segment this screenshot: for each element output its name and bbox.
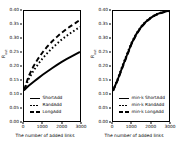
y-tick-label: 0.10 <box>89 92 108 96</box>
y-tick-mark <box>20 80 22 81</box>
legend-swatch-dotted-icon <box>30 103 40 107</box>
y-tick-label: 0.05 <box>0 106 19 110</box>
legend-item: LongAdd <box>30 110 62 114</box>
y-tick-label: 0.40 <box>89 8 108 12</box>
x-axis-label-right: The number of added links <box>95 133 173 138</box>
y-axis-label-sub-left: out <box>4 50 8 55</box>
legend-right: min-k ShortAddmin-k RandAddmin-k LongAdd <box>119 96 165 114</box>
y-tick-mark <box>20 24 22 25</box>
y-tick-mark <box>109 94 111 95</box>
y-tick-mark <box>109 66 111 67</box>
series-line <box>113 11 169 91</box>
y-tick-label: 0.35 <box>0 22 19 26</box>
y-tick-label: 0.05 <box>89 106 108 110</box>
y-tick-mark <box>20 94 22 95</box>
y-tick-label: 0.30 <box>0 36 19 40</box>
y-tick-label: 0.15 <box>0 78 19 82</box>
legend-label: LongAdd <box>43 110 62 114</box>
panel-left: 0.000.050.100.150.200.250.300.350.40 010… <box>0 0 89 146</box>
x-tick-label: 1000 <box>37 125 48 129</box>
legend-item: min-k LongAdd <box>119 110 165 114</box>
y-tick-mark <box>20 10 22 11</box>
y-axis-label-sub-right: out <box>93 50 97 55</box>
legend-label: ShortAdd <box>43 96 63 100</box>
y-tick-label: 0.00 <box>0 120 19 124</box>
x-tick-label: 2000 <box>145 125 156 129</box>
x-axis-label-left: The number of added links <box>6 133 84 138</box>
series-line <box>24 20 80 90</box>
legend-item: ShortAdd <box>30 96 62 100</box>
legend-label: min-k ShortAdd <box>132 96 165 100</box>
legend-item: min-k ShortAdd <box>119 96 165 100</box>
x-tick-mark <box>61 122 62 124</box>
y-tick-mark <box>109 38 111 39</box>
y-tick-mark <box>20 38 22 39</box>
y-tick-mark <box>109 52 111 53</box>
legend-label: RandAdd <box>43 103 62 107</box>
x-tick-label: 3000 <box>76 125 87 129</box>
series-line <box>113 11 169 91</box>
legend-swatch-dashed-icon <box>30 110 40 114</box>
legend-label: min-k LongAdd <box>132 110 164 114</box>
y-axis-label-text-right: R <box>90 55 95 58</box>
y-tick-label: 0.30 <box>89 36 108 40</box>
y-axis-label-left: Rout <box>1 50 9 58</box>
panel-right: 0.000.050.100.150.200.250.300.350.40 010… <box>89 0 178 146</box>
y-tick-mark <box>20 66 22 67</box>
y-tick-label: 0.10 <box>0 92 19 96</box>
x-tick-mark <box>131 122 132 124</box>
y-tick-mark <box>109 108 111 109</box>
legend-item: min-k RandAdd <box>119 103 165 107</box>
x-tick-mark <box>150 122 151 124</box>
y-tick-label: 0.35 <box>89 22 108 26</box>
y-tick-label: 0.20 <box>89 64 108 68</box>
y-tick-label: 0.15 <box>89 78 108 82</box>
y-axis-label-right: Rout <box>90 50 98 58</box>
x-tick-mark <box>170 122 171 124</box>
x-tick-label: 3000 <box>165 125 176 129</box>
legend-swatch-dashed-icon <box>119 110 129 114</box>
y-tick-label: 0.20 <box>0 64 19 68</box>
x-tick-mark <box>23 122 24 124</box>
x-tick-label: 1000 <box>126 125 137 129</box>
y-axis-left: 0.000.050.100.150.200.250.300.350.40 <box>0 10 23 122</box>
x-tick-label: 0 <box>111 125 114 129</box>
legend-left: ShortAddRandAddLongAdd <box>30 96 62 114</box>
legend-label: min-k RandAdd <box>132 103 165 107</box>
x-tick-mark <box>81 122 82 124</box>
x-tick-label: 2000 <box>56 125 67 129</box>
series-line <box>113 11 169 91</box>
legend-item: RandAdd <box>30 103 62 107</box>
legend-swatch-solid-icon <box>119 96 129 100</box>
y-tick-mark <box>109 24 111 25</box>
legend-swatch-dotted-icon <box>119 103 129 107</box>
y-tick-mark <box>20 108 22 109</box>
x-tick-mark <box>112 122 113 124</box>
y-tick-label: 0.00 <box>89 120 108 124</box>
x-tick-label: 0 <box>22 125 25 129</box>
y-axis-label-text-left: R <box>1 55 6 58</box>
x-tick-mark <box>42 122 43 124</box>
y-tick-mark <box>109 10 111 11</box>
y-tick-mark <box>20 52 22 53</box>
series-line <box>24 27 80 90</box>
y-tick-label: 0.40 <box>0 8 19 12</box>
y-axis-right: 0.000.050.100.150.200.250.300.350.40 <box>89 10 112 122</box>
figure-two-panel-line-chart: 0.000.050.100.150.200.250.300.350.40 010… <box>0 0 178 146</box>
legend-swatch-solid-icon <box>30 96 40 100</box>
y-tick-mark <box>109 80 111 81</box>
